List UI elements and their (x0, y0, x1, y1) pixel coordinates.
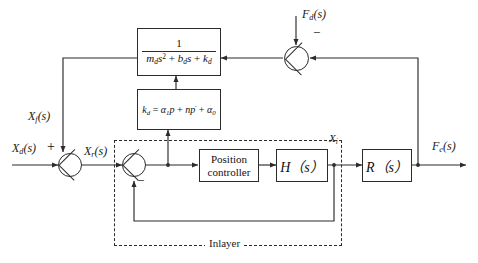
stiffness-equation: kd = α1p + np' + α0 (142, 104, 215, 116)
node-dot-fe (416, 163, 420, 167)
position-controller-line1: Position (211, 153, 247, 166)
h-symbol: H (280, 160, 290, 175)
h-argument: （s） (290, 160, 323, 175)
outer-summing-junction[interactable] (58, 153, 82, 177)
stiffness-law-block[interactable]: kd = α1p + np' + α0 (137, 89, 221, 130)
signal-label-fe: Fe(s) (432, 140, 456, 154)
prime-mark: ' (195, 104, 196, 111)
stiffness-kd-sub: d (147, 108, 150, 115)
admittance-block[interactable]: 1 mds2 + bds + kd (137, 28, 221, 76)
admittance-numerator: 1 (142, 38, 215, 51)
xi-base: X (329, 132, 336, 144)
xi-sub: i (336, 137, 338, 146)
wire-admittance-to-outer-sum (63, 58, 137, 152)
s-symbol-2: s (187, 52, 191, 64)
xd-arg: (s) (23, 141, 36, 155)
signal-label-xf: Xf(s) (28, 110, 50, 124)
r-transfer-block[interactable]: R（s） (362, 149, 412, 182)
h-block-expression: H（s） (280, 156, 324, 176)
stiffness-plus-2: + (199, 104, 205, 115)
admittance-denominator: mds2 + bds + kd (142, 51, 215, 67)
sign-inner-sum-minus: − (137, 174, 144, 187)
stiffness-plus-1: + (177, 104, 183, 115)
block-diagram-canvas: Inlayer 1 mds2 + bds + kd kd = α1p + np'… (0, 0, 478, 263)
alpha-0-sub: 0 (212, 108, 215, 115)
fe-arg: (s) (443, 139, 456, 153)
fd-arg: (s) (313, 7, 326, 21)
force-summing-junction[interactable] (284, 46, 309, 71)
equals-sign: = (153, 104, 159, 115)
xf-arg: (s) (38, 109, 51, 123)
sign-outer-sum-plus: + (47, 140, 55, 154)
r-block-expression: R（s） (366, 156, 408, 176)
admittance-fraction: 1 mds2 + bds + kd (142, 38, 215, 66)
s-exponent: 2 (162, 52, 166, 61)
kd-subscript: d (208, 57, 212, 66)
r-argument: （s） (375, 160, 408, 175)
signal-label-xi: Xi (329, 133, 338, 146)
plus-sign-1: + (169, 52, 175, 64)
xr-arg: (s) (95, 144, 108, 158)
signal-label-xr: Xr(s) (84, 145, 107, 159)
sign-force-sum-minus: − (313, 26, 320, 39)
r-symbol: R (366, 160, 375, 175)
signal-label-xd: Xd(s) (12, 142, 36, 156)
plus-sign-2: + (194, 52, 200, 64)
position-controller-block[interactable]: Position controller (199, 149, 259, 182)
inlayer-label: Inlayer (205, 238, 244, 249)
p-symbol-1: p (169, 104, 174, 115)
position-controller-line2: controller (208, 166, 251, 179)
h-transfer-block[interactable]: H（s） (276, 149, 328, 182)
signal-label-fd: Fd(s) (302, 8, 326, 22)
